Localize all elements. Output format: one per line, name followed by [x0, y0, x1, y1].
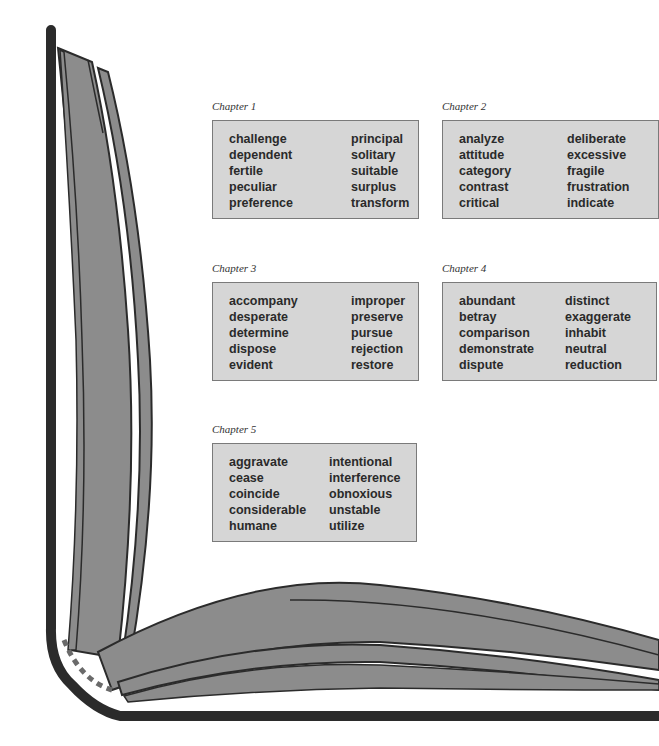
- vocab-word: preserve: [351, 309, 405, 325]
- vocab-word: utilize: [329, 518, 401, 534]
- vocab-word: attitude: [459, 147, 511, 163]
- chapter-5-vocabulary: Chapter 5 aggravate cease coincide consi…: [212, 423, 417, 542]
- vocab-word: accompany: [229, 293, 298, 309]
- vocab-word: desperate: [229, 309, 298, 325]
- vocab-word: preference: [229, 195, 293, 211]
- word-box: abundant betray comparison demonstrate d…: [442, 282, 657, 381]
- vocab-word: peculiar: [229, 179, 293, 195]
- vocab-word: category: [459, 163, 511, 179]
- vocab-word: demonstrate: [459, 341, 534, 357]
- vocab-word: distinct: [565, 293, 631, 309]
- vocab-word: abundant: [459, 293, 534, 309]
- vocab-word: exaggerate: [565, 309, 631, 325]
- vocab-word: determine: [229, 325, 298, 341]
- word-column-left: accompany desperate determine dispose ev…: [229, 293, 298, 380]
- word-box: aggravate cease coincide considerable hu…: [212, 443, 417, 542]
- vocab-word: suitable: [351, 163, 409, 179]
- vocab-word: betray: [459, 309, 534, 325]
- vocab-word: dependent: [229, 147, 293, 163]
- chapter-title: Chapter 3: [212, 262, 419, 275]
- vocab-word: analyze: [459, 131, 511, 147]
- vocab-word: transform: [351, 195, 409, 211]
- vocab-word: reduction: [565, 357, 631, 373]
- word-box: analyze attitude category contrast criti…: [442, 120, 659, 219]
- vocab-word: excessive: [567, 147, 630, 163]
- word-column-right: deliberate excessive fragile frustration…: [567, 131, 630, 211]
- vocab-word: coincide: [229, 486, 306, 502]
- word-column-left: challenge dependent fertile peculiar pre…: [229, 131, 293, 218]
- chapter-title: Chapter 5: [212, 423, 417, 436]
- vocab-word: restore: [351, 357, 405, 373]
- vocab-word: unstable: [329, 502, 401, 518]
- vocab-word: neutral: [565, 341, 631, 357]
- chapter-4-vocabulary: Chapter 4 abundant betray comparison dem…: [442, 262, 657, 381]
- vocab-word: surplus: [351, 179, 409, 195]
- vocab-word: inhabit: [565, 325, 631, 341]
- chapter-1-vocabulary: Chapter 1 challenge dependent fertile pe…: [212, 100, 419, 219]
- vocab-word: contrast: [459, 179, 511, 195]
- vocab-word: frustration: [567, 179, 630, 195]
- chapter-3-vocabulary: Chapter 3 accompany desperate determine …: [212, 262, 419, 381]
- vocab-word: obnoxious: [329, 486, 401, 502]
- word-column-left: analyze attitude category contrast criti…: [459, 131, 511, 218]
- vocab-word: dispute: [459, 357, 534, 373]
- vocab-word: fragile: [567, 163, 630, 179]
- word-box: challenge dependent fertile peculiar pre…: [212, 120, 419, 219]
- word-column-left: aggravate cease coincide considerable hu…: [229, 454, 306, 541]
- chapter-title: Chapter 4: [442, 262, 657, 275]
- vocab-word: principal: [351, 131, 409, 147]
- vocab-word: critical: [459, 195, 511, 211]
- word-column-right: intentional interference obnoxious unsta…: [329, 454, 401, 534]
- vocab-word: cease: [229, 470, 306, 486]
- word-box: accompany desperate determine dispose ev…: [212, 282, 419, 381]
- word-column-right: improper preserve pursue rejection resto…: [351, 293, 405, 373]
- vocab-word: challenge: [229, 131, 293, 147]
- vocab-word: rejection: [351, 341, 405, 357]
- vocab-word: aggravate: [229, 454, 306, 470]
- vocab-word: intentional: [329, 454, 401, 470]
- word-column-right: principal solitary suitable surplus tran…: [351, 131, 409, 211]
- vocab-word: considerable: [229, 502, 306, 518]
- vocab-word: fertile: [229, 163, 293, 179]
- chapter-title: Chapter 2: [442, 100, 659, 113]
- vocab-word: comparison: [459, 325, 534, 341]
- vocab-word: indicate: [567, 195, 630, 211]
- word-column-left: abundant betray comparison demonstrate d…: [459, 293, 534, 380]
- vocab-word: pursue: [351, 325, 405, 341]
- vocab-word: evident: [229, 357, 298, 373]
- vocab-word: dispose: [229, 341, 298, 357]
- chapter-2-vocabulary: Chapter 2 analyze attitude category cont…: [442, 100, 659, 219]
- vocab-word: deliberate: [567, 131, 630, 147]
- vocab-word: improper: [351, 293, 405, 309]
- vocab-word: humane: [229, 518, 306, 534]
- vocab-word: solitary: [351, 147, 409, 163]
- word-column-right: distinct exaggerate inhabit neutral redu…: [565, 293, 631, 373]
- vocab-word: interference: [329, 470, 401, 486]
- chapter-title: Chapter 1: [212, 100, 419, 113]
